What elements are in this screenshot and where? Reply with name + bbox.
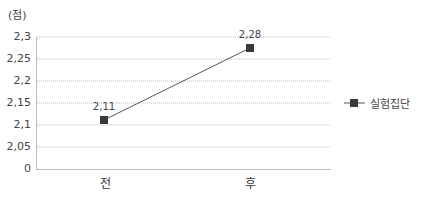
data-label-post: 2,28 <box>239 29 261 40</box>
data-label-pre: 2,11 <box>93 101 115 112</box>
y-tick-label: 0 <box>24 162 31 175</box>
chart-plot-area <box>0 0 421 202</box>
gridlines <box>37 37 331 147</box>
y-tick-label: 2,2 <box>14 74 32 87</box>
x-tick-label-post: 후 <box>245 174 256 191</box>
data-point-marker-pre <box>100 116 108 124</box>
legend: 실험집단 <box>370 95 410 111</box>
data-point-marker-post <box>246 44 254 52</box>
y-tick-label: 2,3 <box>14 30 32 43</box>
legend-label: 실험집단 <box>370 95 410 111</box>
y-tick-label: 2,25 <box>7 52 32 65</box>
x-tick-label-pre: 전 <box>100 174 111 191</box>
y-tick-label: 2,1 <box>14 118 32 131</box>
legend-marker <box>350 99 358 107</box>
y-tick-label: 2,05 <box>7 140 32 153</box>
y-tick-label: 2,15 <box>7 96 32 109</box>
